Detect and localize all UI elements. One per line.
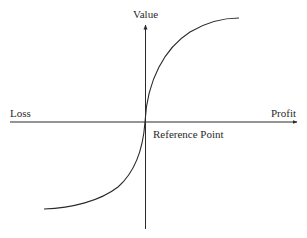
value-curve-losses <box>44 122 145 209</box>
reference-point-label: Reference Point <box>153 128 224 140</box>
x-axis-negative-label: Loss <box>10 107 31 119</box>
y-axis-label: Value <box>133 8 158 20</box>
value-function-diagram: Value Loss Profit Reference Point <box>0 0 307 238</box>
value-curve-gains <box>145 18 239 122</box>
x-axis-positive-label: Profit <box>271 107 296 119</box>
diagram-svg <box>0 0 307 238</box>
